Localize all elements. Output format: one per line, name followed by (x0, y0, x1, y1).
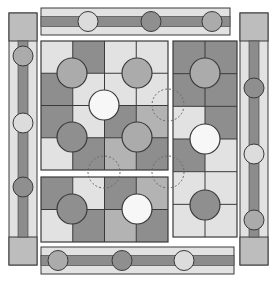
strip-token[interactable] (244, 78, 264, 98)
puzzle-board-scene (0, 0, 277, 282)
board-token[interactable] (122, 58, 152, 88)
left-strip[interactable] (9, 13, 37, 265)
track-bar (18, 41, 28, 237)
board-token[interactable] (57, 58, 87, 88)
track-bar (41, 256, 234, 266)
strip-token[interactable] (112, 251, 132, 271)
strip-token[interactable] (202, 12, 222, 32)
board-token[interactable] (190, 58, 220, 88)
board-token[interactable] (122, 194, 152, 224)
strip-token[interactable] (78, 12, 98, 32)
bottom-strip[interactable] (41, 247, 234, 274)
top-strip[interactable] (41, 8, 230, 35)
strip-token[interactable] (244, 144, 264, 164)
strip-token[interactable] (48, 251, 68, 271)
strip-cap-bottom (240, 237, 268, 265)
strip-token[interactable] (13, 113, 33, 133)
strip-cap-top (240, 13, 268, 41)
board-token[interactable] (89, 90, 119, 120)
strip-token[interactable] (13, 177, 33, 197)
right-board-tokens (190, 58, 220, 220)
board-token[interactable] (122, 122, 152, 152)
strip-token[interactable] (141, 12, 161, 32)
board-token[interactable] (57, 122, 87, 152)
board-token[interactable] (57, 194, 87, 224)
strip-token[interactable] (244, 210, 264, 230)
strip-token[interactable] (13, 46, 33, 66)
right-strip[interactable] (240, 13, 268, 265)
board-token[interactable] (190, 124, 220, 154)
strip-token[interactable] (174, 251, 194, 271)
track-bar (249, 41, 259, 237)
strip-cap-bottom (9, 237, 37, 265)
strip-cap-top (9, 13, 37, 41)
board-token[interactable] (190, 190, 220, 220)
